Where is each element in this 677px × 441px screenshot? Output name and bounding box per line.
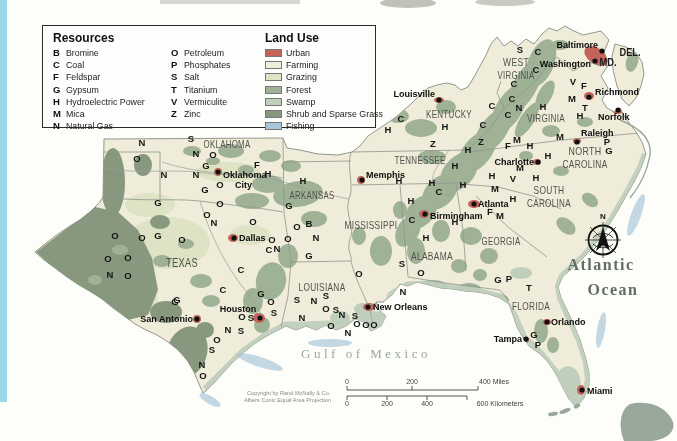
resource-letter: N — [516, 102, 523, 113]
resource-letter: S — [188, 133, 194, 144]
islands — [548, 403, 674, 441]
resource-letter: N — [161, 169, 168, 180]
city-dot — [365, 304, 370, 309]
legend-land-use-row: Farming — [265, 59, 383, 71]
resource-letter: O — [209, 149, 216, 160]
resource-letter: G — [171, 296, 178, 307]
resource-letter: T — [526, 282, 532, 293]
legend-resources-title: Resources — [53, 31, 265, 45]
resource-letter: C — [535, 46, 542, 57]
resource-letter: S — [271, 307, 277, 318]
resource-name: Coal — [66, 60, 84, 70]
legend-resource-row: CCoal — [53, 59, 171, 71]
scale-miles-tick: 400 Miles — [479, 378, 509, 385]
resource-letter: G — [202, 160, 209, 171]
resource-letter: F — [254, 159, 260, 170]
resource-letter: C — [505, 109, 512, 120]
resource-letter: S — [294, 294, 300, 305]
compass-north-label: N — [600, 212, 606, 221]
city-label: Tampa — [494, 334, 523, 344]
legend-swatch-urban — [265, 49, 282, 57]
resource-letter: V — [570, 76, 577, 87]
resource-code: N — [53, 120, 66, 131]
resource-letter: M — [491, 183, 499, 194]
resource-code: H — [53, 96, 66, 107]
resource-letter: M — [513, 134, 521, 145]
legend-resource-row: NNatural Gas — [53, 120, 171, 132]
land-use-label: Forest — [286, 85, 311, 95]
resource-letter: G — [494, 274, 501, 285]
legend-resource-row: OPetroleum — [171, 47, 265, 59]
state-label: FLORIDA — [512, 300, 550, 312]
land-use-label: Urban — [286, 48, 310, 58]
resource-letter: P — [506, 273, 513, 284]
resource-letter: B — [306, 218, 313, 229]
resource-letter: G — [257, 288, 264, 299]
legend-resource-row: VVermiculite — [171, 96, 265, 108]
resource-letter: H — [408, 195, 415, 206]
map-page: OKLAHOMATEXASARKANSASLOUISIANAMISSISSIPP… — [0, 0, 677, 441]
state-label: MISSISSIPPI — [345, 219, 398, 231]
state-label: TEXAS — [166, 256, 198, 270]
resource-letter: S — [238, 325, 244, 336]
resource-letter: O — [199, 370, 206, 381]
city-dot — [574, 139, 579, 144]
city-dot — [586, 94, 591, 99]
water-label: Ocean — [587, 281, 638, 298]
resource-letter: N — [313, 232, 320, 243]
resource-letter: Z — [430, 138, 436, 149]
scale-km-tick: 200 — [381, 400, 393, 407]
legend-swatch-farming — [265, 61, 282, 69]
resource-code: Z — [171, 108, 184, 119]
legend-land-use: Land Use UrbanFarmingGrazingForestSwampS… — [265, 31, 383, 123]
resource-letter: S — [399, 258, 405, 269]
resource-letter: O — [355, 268, 362, 279]
water-label: Gulf of Mexico — [301, 346, 431, 361]
city-label: Charlotte — [494, 157, 534, 167]
land-use-label: Grazing — [286, 72, 317, 82]
legend-land-use-row: Grazing — [265, 71, 383, 83]
legend-swatch-forest — [265, 86, 282, 94]
land-use-label: Farming — [286, 60, 318, 70]
city-label: Washington — [540, 59, 591, 69]
resource-letter: G — [305, 250, 312, 261]
city-dot — [215, 169, 220, 174]
city-label: Louisville — [393, 89, 435, 99]
resource-letter: N — [311, 295, 318, 306]
resource-letter: C — [409, 214, 416, 225]
scale-miles-tick: 0 — [345, 378, 349, 385]
resource-letter: O — [104, 253, 111, 264]
resource-letter: O — [417, 267, 424, 278]
resource-letter: C — [238, 264, 245, 275]
legend-box: Resources BBromineCCoalFFeldsparGGypsumH… — [42, 25, 376, 128]
resource-letter: N — [193, 148, 200, 159]
city-dot — [535, 159, 540, 164]
map-credit-line: Albers Conic Equal Area Projection — [244, 397, 331, 403]
resource-letter: O — [249, 216, 256, 227]
resource-letter: O — [138, 232, 145, 243]
legend-land-use-row: Urban — [265, 47, 383, 59]
legend-land-use-row: Swamp — [265, 96, 383, 108]
legend-resource-row: MMica — [53, 108, 171, 120]
city-label: Baltimore — [556, 40, 598, 50]
resource-letter: F — [581, 80, 587, 91]
resource-name: Zinc — [184, 109, 201, 119]
legend-swatch-swamp — [265, 98, 282, 106]
city-dot — [471, 201, 476, 206]
city-label: San Antonio — [140, 314, 193, 324]
resource-letter: H — [385, 124, 392, 135]
resource-code: C — [53, 59, 66, 70]
resource-letter: O — [111, 230, 118, 241]
city-label: Miami — [587, 386, 613, 396]
state-label: SOUTH — [534, 184, 565, 196]
resource-code: B — [53, 47, 66, 58]
state-label: TENNESSEE — [395, 154, 446, 166]
land-use-label: Swamp — [286, 97, 315, 107]
resource-letter: N — [193, 169, 200, 180]
resource-letter: N — [107, 269, 114, 280]
resource-letter: G — [605, 145, 612, 156]
resource-letter: H — [442, 121, 449, 132]
city-dot — [359, 177, 364, 182]
legend-resource-row: PPhosphates — [171, 59, 265, 71]
map-credit-line: Copyright by Rand McNally & Co. — [247, 390, 331, 396]
